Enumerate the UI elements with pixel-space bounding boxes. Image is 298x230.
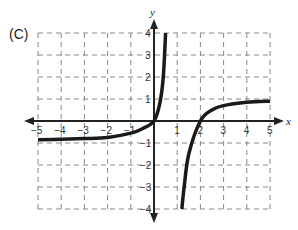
x-tick-label: 3 bbox=[221, 125, 227, 136]
y-tick-label: −1 bbox=[140, 138, 152, 149]
y-tick-label: 3 bbox=[145, 50, 151, 61]
curve-right bbox=[182, 101, 270, 209]
x-tick-label: −4 bbox=[54, 125, 66, 136]
y-tick-label: −3 bbox=[140, 182, 152, 193]
x-tick-label: −3 bbox=[77, 125, 89, 136]
arrow-left-icon bbox=[24, 117, 34, 125]
y-tick-label: 2 bbox=[145, 72, 151, 83]
y-tick-label: 1 bbox=[145, 94, 151, 105]
x-tick-label: 1 bbox=[174, 125, 180, 136]
y-tick-label: −2 bbox=[140, 160, 152, 171]
graph: xy−5−4−3−2−1123454321−1−2−3−4 bbox=[0, 0, 298, 230]
arrow-right-icon bbox=[274, 117, 284, 125]
y-axis-label: y bbox=[149, 6, 155, 18]
x-tick-label: −5 bbox=[31, 125, 43, 136]
x-tick-label: 4 bbox=[244, 125, 250, 136]
x-tick-label: −2 bbox=[101, 125, 113, 136]
y-tick-label: 4 bbox=[145, 28, 151, 39]
x-tick-label: 5 bbox=[267, 125, 273, 136]
arrow-up-icon bbox=[150, 19, 158, 29]
y-tick-label: −4 bbox=[140, 204, 152, 215]
x-axis-label: x bbox=[285, 115, 291, 127]
curve-left bbox=[38, 33, 166, 140]
